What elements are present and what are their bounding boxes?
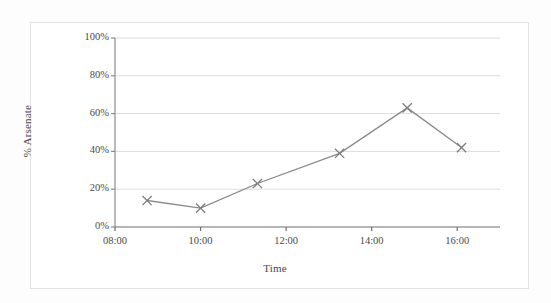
y-tick-label: 80%	[63, 69, 109, 80]
chart-figure: 0%20%40%60%80%100% 08:0010:0012:0014:001…	[0, 0, 551, 303]
y-tick-label: 20%	[63, 182, 109, 193]
x-tick-label: 10:00	[171, 235, 231, 246]
y-tick-label: 40%	[63, 144, 109, 155]
y-axis-title: % Arsenate	[21, 83, 33, 179]
y-tick-label: 60%	[63, 107, 109, 118]
data-point-markers	[142, 103, 466, 212]
gridlines	[115, 38, 500, 189]
x-tick-label: 16:00	[427, 235, 487, 246]
y-tick-label: 100%	[63, 31, 109, 42]
data-series-line	[147, 108, 461, 208]
x-axis-ticks	[115, 227, 457, 231]
x-axis-title: Time	[230, 262, 320, 274]
x-tick-label: 14:00	[342, 235, 402, 246]
x-tick-label: 08:00	[85, 235, 145, 246]
x-tick-label: 12:00	[256, 235, 316, 246]
y-tick-label: 0%	[63, 220, 109, 231]
